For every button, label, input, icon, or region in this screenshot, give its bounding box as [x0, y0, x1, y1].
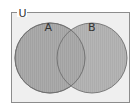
venn-diagram: U A B — [0, 0, 135, 110]
set-b-label: B — [88, 21, 96, 34]
set-a-label: A — [45, 21, 53, 34]
universe-label: U — [19, 7, 27, 20]
